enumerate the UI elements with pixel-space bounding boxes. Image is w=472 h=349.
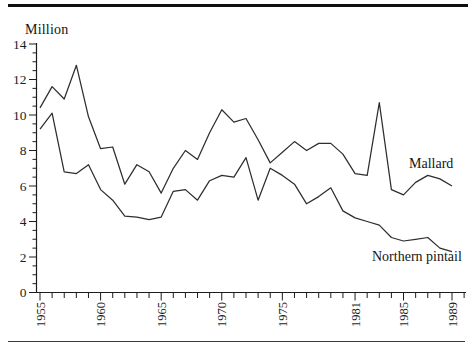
y-tick-label: 6	[20, 179, 27, 194]
y-tick-label: 0	[20, 285, 27, 300]
x-tick-label-1960: 1960	[94, 302, 108, 327]
series-label-northern-pintail: Northern pintail	[372, 249, 462, 265]
series-label-mallard: Mallard	[409, 156, 453, 172]
y-tick-label: 10	[13, 108, 27, 123]
y-tick-label: 4	[20, 214, 27, 229]
y-tick-label: 2	[20, 250, 27, 265]
line-chart: 0246810121419551960196519701975198119851…	[0, 0, 472, 349]
x-tick-label-1975: 1975	[276, 302, 290, 327]
x-tick-label-1965: 1965	[155, 302, 169, 327]
x-tick-label-1970: 1970	[215, 302, 229, 327]
x-tick-label-1955: 1955	[34, 302, 48, 327]
x-tick-label-1981: 1981	[349, 302, 363, 327]
figure-page: 0246810121419551960196519701975198119851…	[0, 0, 472, 349]
bottom-rule	[8, 341, 465, 342]
x-tick-label-1989: 1989	[446, 302, 460, 327]
y-axis-title: Million	[25, 22, 68, 38]
series-line-mallard	[40, 65, 452, 195]
y-tick-label: 8	[20, 143, 27, 158]
x-tick-label-1985: 1985	[397, 302, 411, 327]
y-tick-label: 12	[13, 72, 27, 87]
y-tick-label: 14	[13, 37, 27, 52]
